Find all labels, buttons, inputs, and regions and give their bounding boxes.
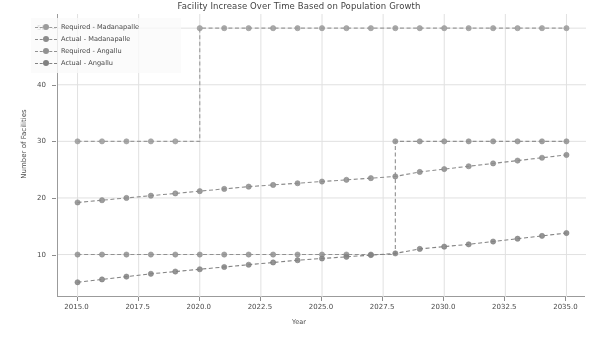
data-point	[173, 139, 178, 144]
data-point	[124, 195, 129, 200]
data-point	[319, 256, 324, 261]
data-point	[319, 26, 324, 31]
data-point	[124, 139, 129, 144]
data-point	[344, 254, 349, 259]
data-point	[197, 252, 202, 257]
data-point	[148, 139, 153, 144]
legend-item[interactable]: Required - Madanapalle	[35, 21, 177, 33]
data-point	[246, 26, 251, 31]
data-point	[564, 152, 569, 157]
x-tick-mark	[199, 297, 200, 301]
chart-figure: Facility Increase Over Time Based on Pop…	[0, 0, 598, 339]
data-point	[442, 166, 447, 171]
data-point	[466, 26, 471, 31]
data-point	[564, 26, 569, 31]
data-point	[393, 251, 398, 256]
data-point	[173, 252, 178, 257]
data-point	[417, 169, 422, 174]
x-tick-mark	[138, 297, 139, 301]
data-point	[75, 252, 80, 257]
data-point	[466, 164, 471, 169]
data-point	[246, 184, 251, 189]
data-point	[417, 26, 422, 31]
x-tick-mark	[77, 297, 78, 301]
data-point	[491, 26, 496, 31]
chart-legend: Required - MadanapalleActual - Madanapal…	[31, 18, 181, 73]
legend-marker-icon	[35, 22, 57, 32]
data-point	[344, 26, 349, 31]
data-point	[75, 139, 80, 144]
data-point	[173, 191, 178, 196]
data-point	[75, 280, 80, 285]
data-point	[222, 186, 227, 191]
data-point	[148, 252, 153, 257]
data-point	[417, 246, 422, 251]
x-tick-mark	[565, 297, 566, 301]
data-point	[99, 198, 104, 203]
data-point	[99, 252, 104, 257]
x-tick-label: 2025.0	[291, 303, 351, 311]
legend-label: Actual - Angallu	[61, 59, 113, 67]
data-point	[197, 189, 202, 194]
data-point	[368, 26, 373, 31]
data-point	[295, 258, 300, 263]
data-point	[393, 26, 398, 31]
x-tick-label: 2020.0	[169, 303, 229, 311]
data-point	[491, 239, 496, 244]
data-point	[222, 26, 227, 31]
y-axis-title: Number of Facilities	[20, 24, 28, 264]
legend-item[interactable]: Actual - Angallu	[35, 57, 177, 69]
data-point	[442, 26, 447, 31]
x-tick-mark	[443, 297, 444, 301]
data-point	[417, 139, 422, 144]
data-point	[515, 26, 520, 31]
data-point	[295, 26, 300, 31]
legend-marker-icon	[35, 58, 57, 68]
x-tick-label: 2032.5	[474, 303, 534, 311]
data-point	[393, 139, 398, 144]
legend-marker-icon	[35, 46, 57, 56]
x-tick-mark	[504, 297, 505, 301]
data-point	[515, 236, 520, 241]
data-point	[295, 181, 300, 186]
x-tick-label: 2015.0	[47, 303, 107, 311]
data-point	[271, 26, 276, 31]
data-point	[148, 271, 153, 276]
data-point	[246, 252, 251, 257]
data-point	[539, 26, 544, 31]
data-point	[173, 269, 178, 274]
legend-label: Actual - Madanapalle	[61, 35, 130, 43]
legend-label: Required - Angallu	[61, 47, 122, 55]
legend-marker-icon	[35, 34, 57, 44]
data-point	[344, 177, 349, 182]
data-point	[271, 260, 276, 265]
data-point	[539, 155, 544, 160]
data-point	[442, 139, 447, 144]
data-point	[319, 179, 324, 184]
data-point	[295, 252, 300, 257]
data-point	[271, 182, 276, 187]
data-point	[539, 233, 544, 238]
data-point	[491, 139, 496, 144]
data-point	[368, 253, 373, 258]
legend-label: Required - Madanapalle	[61, 23, 139, 31]
data-point	[515, 158, 520, 163]
x-tick-mark	[321, 297, 322, 301]
data-point	[539, 139, 544, 144]
data-point	[564, 139, 569, 144]
data-point	[515, 139, 520, 144]
data-point	[491, 161, 496, 166]
x-tick-label: 2027.5	[352, 303, 412, 311]
data-point	[368, 176, 373, 181]
data-point	[222, 252, 227, 257]
data-point	[466, 242, 471, 247]
legend-item[interactable]: Actual - Madanapalle	[35, 33, 177, 45]
data-point	[148, 193, 153, 198]
data-point	[246, 262, 251, 267]
data-point	[271, 252, 276, 257]
x-tick-label: 2017.5	[108, 303, 168, 311]
data-point	[99, 277, 104, 282]
data-point	[466, 139, 471, 144]
legend-item[interactable]: Required - Angallu	[35, 45, 177, 57]
data-point	[99, 139, 104, 144]
